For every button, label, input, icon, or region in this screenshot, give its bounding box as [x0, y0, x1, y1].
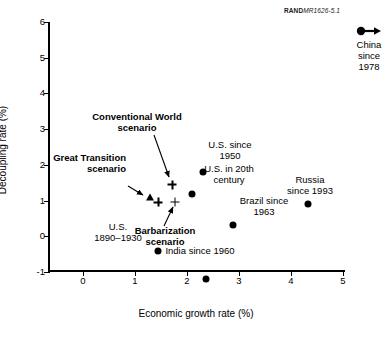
annotation-us-since-1950: U.S. since 1950	[195, 140, 265, 162]
annotation-us-1890-1930-line2: 1890–1930	[94, 232, 142, 243]
off-chart-callout-china[interactable]: China since 1978	[351, 26, 387, 73]
annotation-us-since-1950-line2: 1950	[219, 150, 240, 161]
annotation-india-1960-line1: India since 1960	[165, 245, 234, 256]
scenario-marker-barbarization[interactable]	[171, 197, 180, 206]
scenario-marker-conventional-world[interactable]	[168, 180, 177, 189]
annotation-conventional-world-line2: scenario	[117, 122, 156, 133]
annotation-us-since-1950-line1: U.S. since	[208, 139, 251, 150]
data-point-russia-1993[interactable]	[304, 201, 311, 208]
x-tick-label-5: 5	[340, 276, 345, 286]
x-tick-label-1: 1	[132, 276, 137, 286]
x-tick-label-3: 3	[236, 276, 241, 286]
rand-logo-text: RAND	[284, 7, 303, 14]
scenario-marker-great-transition[interactable]	[146, 194, 154, 201]
data-point-india-1960[interactable]	[203, 276, 210, 283]
annotation-conventional-world: Conventional World scenario	[77, 112, 197, 134]
y-axis-title: Decoupling rate (%)	[0, 106, 8, 194]
dot-with-right-arrow-icon	[355, 26, 383, 36]
china-callout-line2: since	[358, 50, 380, 61]
annotation-great-transition: Great Transition scenario	[10, 153, 126, 175]
annotation-russia-1993-line1: Russia	[295, 174, 324, 185]
figure-number: MR1626-5.1	[303, 7, 340, 14]
annotation-great-transition-line1: Great Transition	[53, 152, 126, 163]
annotation-brazil-1963-line2: 1963	[253, 206, 274, 217]
annotation-russia-1993-line2: since 1993	[287, 185, 333, 196]
china-callout-line3: 1978	[358, 61, 379, 72]
figure-source-id: RANDMR1626-5.1	[284, 7, 340, 14]
annotation-us-20th-century-line1: U.S. in 20th	[204, 163, 254, 174]
x-tick-label-4: 4	[288, 276, 293, 286]
y-tick-label-5: 5	[40, 53, 45, 63]
annotation-conventional-world-line1: Conventional World	[92, 111, 182, 122]
annotation-us-1890-1930-line1: U.S.	[109, 221, 127, 232]
annotation-brazil-1963-line1: Brazil since	[240, 195, 289, 206]
annotation-us-1890-1930: U.S. 1890–1930	[83, 222, 153, 244]
y-tick-label-1: 1	[40, 196, 45, 206]
y-tick-label-6: 6	[40, 17, 45, 27]
y-tick-label-3: 3	[40, 124, 45, 134]
y-tick-label-4: 4	[40, 89, 45, 99]
data-point-brazil-1963[interactable]	[229, 221, 236, 228]
x-tick-label-2: 2	[184, 276, 189, 286]
annotation-us-20th-century-line2: century	[213, 174, 244, 185]
annotation-us-20th-century: U.S. in 20th century	[186, 164, 272, 186]
annotation-brazil-1963: Brazil since 1963	[227, 196, 301, 218]
data-point-us-20th-century[interactable]	[189, 190, 196, 197]
x-axis-title: Economic growth rate (%)	[138, 308, 253, 319]
scenario-marker-middle[interactable]	[154, 198, 163, 207]
y-tick-label-0: 0	[40, 232, 45, 242]
x-tick-label-0: 0	[80, 276, 85, 286]
annotation-great-transition-line2: scenario	[87, 163, 126, 174]
annotation-russia-1993: Russia since 1993	[273, 175, 347, 197]
china-callout-line1: China	[357, 39, 382, 50]
annotation-india-1960: India since 1960	[146, 246, 254, 257]
y-tick-label-neg1: -1	[37, 267, 45, 277]
